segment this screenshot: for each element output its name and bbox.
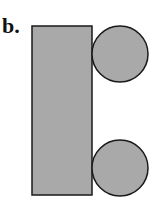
bottom-circle-shape — [92, 140, 148, 196]
rectangle-shape — [32, 26, 92, 195]
diagram-canvas — [0, 0, 154, 202]
top-circle-shape — [92, 26, 148, 82]
